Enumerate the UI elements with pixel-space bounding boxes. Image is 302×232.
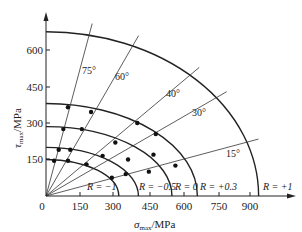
x-tick-label: 150 (72, 200, 89, 212)
y-tick-label: 600 (27, 44, 44, 56)
angle-label-15: 15° (226, 148, 240, 159)
y-axis-arrow-icon (44, 12, 49, 21)
envelope-curve (46, 32, 259, 196)
x-axis-arrow-icon (287, 194, 296, 199)
angle-line-75 (46, 24, 92, 196)
y-tick-label: 450 (27, 81, 44, 93)
y-tick-label: 300 (27, 117, 44, 129)
curve-label-r-minus-0-5: R = −0.5 (138, 181, 176, 192)
data-point (61, 127, 65, 131)
curve-label-r-plus-1: R = +1 (262, 181, 293, 192)
angle-line-40 (46, 67, 199, 196)
data-point (135, 121, 139, 125)
x-tick-label: 900 (242, 200, 259, 212)
data-point (126, 157, 130, 161)
data-point (66, 105, 70, 109)
angle-line-60 (46, 36, 139, 196)
data-point (147, 169, 151, 173)
data-point (100, 154, 104, 158)
data-point (110, 176, 114, 180)
angle-label-75: 75° (82, 65, 96, 76)
x-tick-label: 300 (105, 200, 122, 212)
envelope-curves (46, 32, 259, 196)
x-tick-label: 600 (176, 200, 193, 212)
angle-label-60: 60° (115, 71, 129, 82)
data-point (84, 162, 88, 166)
y-tick-label: 150 (27, 153, 44, 165)
x-axis-title: σmax/MPa (134, 218, 175, 232)
x-tick-label: 0 (39, 200, 45, 212)
data-point (80, 127, 84, 131)
data-points (52, 105, 178, 180)
data-point (124, 172, 128, 176)
data-point (68, 148, 72, 152)
x-tick-label: 450 (142, 200, 159, 212)
data-point (57, 148, 61, 152)
stress-diagram: 150 300 450 600 0 150 300 450 600 750 90… (0, 0, 302, 232)
data-point (66, 159, 70, 163)
curve-label-r-minus-1: R = −1 (86, 181, 117, 192)
curve-label-r-0: R = 0 (174, 181, 198, 192)
data-point (89, 110, 93, 114)
angle-label-30: 30° (192, 107, 206, 118)
data-point (151, 152, 155, 156)
data-point (154, 132, 158, 136)
x-tick-label: 750 (211, 200, 228, 212)
data-point (173, 163, 177, 167)
data-point (113, 140, 117, 144)
data-point (52, 159, 56, 163)
y-axis-title: τmax/MPa (11, 108, 25, 148)
curve-label-r-plus-0-3: R = +0.3 (199, 181, 237, 192)
angle-label-40: 40° (166, 88, 180, 99)
